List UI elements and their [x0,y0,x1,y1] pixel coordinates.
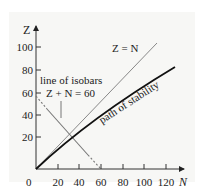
svg-text:40: 40 [22,109,34,121]
y-ticks [36,47,41,137]
svg-text:100: 100 [136,176,153,188]
y-tick-labels: 100 80 60 40 20 [17,41,34,143]
svg-text:80: 80 [22,64,34,76]
n-axis-label: N [178,175,188,189]
origin-label: 0 [26,176,32,188]
z-equals-n-line [36,43,157,169]
svg-text:60: 60 [22,87,34,99]
isobar-label-line1: line of isobars [40,74,102,86]
svg-text:20: 20 [22,131,34,143]
svg-text:40: 40 [74,176,86,188]
svg-text:100: 100 [17,41,34,53]
x-tick-labels: 20 40 60 80 100 120 [53,176,175,188]
x-ticks [58,164,166,169]
z-equals-n-label: Z = N [112,42,138,54]
z-axis-label: Z [23,23,30,37]
isobar-label-line2: Z + N = 60 [46,87,96,99]
isobar-line [36,96,101,169]
svg-text:60: 60 [96,176,108,188]
svg-text:20: 20 [53,176,65,188]
svg-text:80: 80 [118,176,130,188]
stability-label: path of stability [97,78,162,126]
nuclide-stability-chart: Z N 0 100 80 60 40 20 20 40 60 80 100 12… [0,0,207,192]
svg-text:120: 120 [158,176,175,188]
